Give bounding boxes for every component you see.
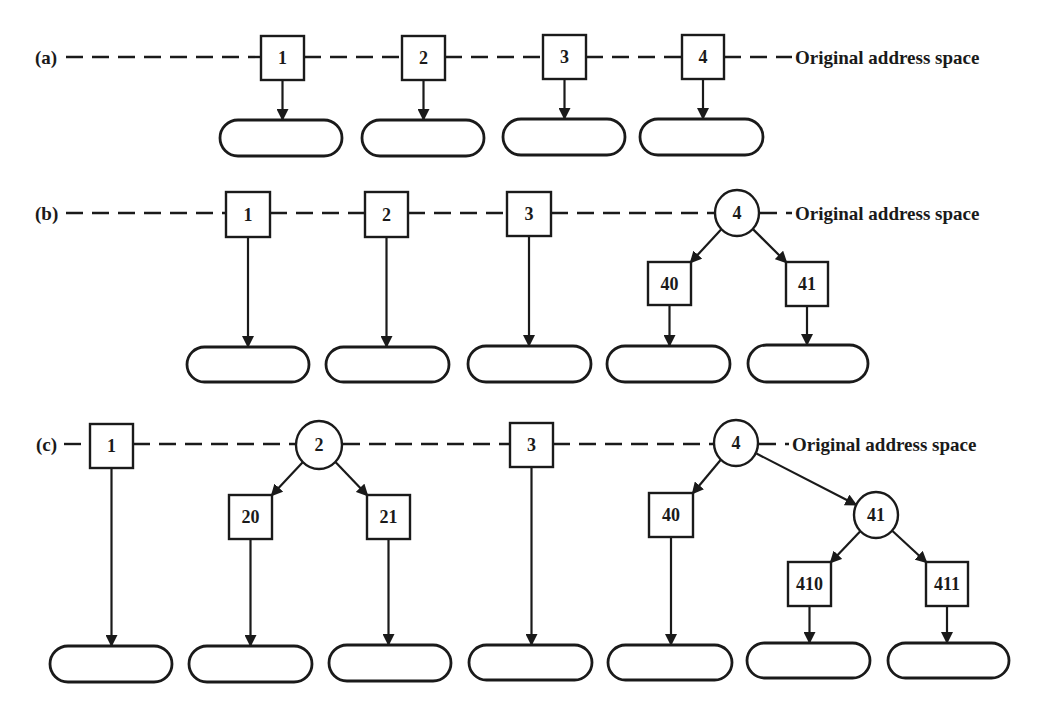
pointer-arrow (831, 532, 860, 562)
original-address-space-label: Original address space (795, 47, 979, 68)
pointer-arrow (753, 229, 786, 262)
node-label: 3 (525, 204, 534, 224)
node-label: 4 (733, 203, 742, 223)
split-node-2: 2 (296, 421, 342, 469)
node-label: 41 (798, 274, 816, 294)
node-label: 40 (661, 274, 679, 294)
data-bucket (748, 345, 868, 382)
node-label: 2 (315, 435, 324, 455)
directory-entry-20: 20 (229, 495, 272, 539)
split-node-4: 4 (714, 420, 758, 466)
directory-entry-2: 2 (402, 36, 445, 80)
node-label: 21 (380, 507, 398, 527)
node-label: 1 (107, 436, 116, 456)
split-node-4: 4 (715, 190, 759, 236)
directory-entry-1: 1 (226, 192, 270, 237)
row-label: (b) (35, 203, 58, 225)
directory-entry-2: 2 (365, 192, 408, 237)
pointer-arrow (892, 531, 926, 562)
directory-entry-40: 40 (648, 262, 691, 305)
pointer-arrow (691, 230, 721, 262)
data-bucket (747, 643, 870, 678)
pointer-arrow (756, 454, 855, 505)
directory-entry-410: 410 (788, 562, 831, 606)
pointer-arrow (336, 462, 367, 495)
directory-entry-21: 21 (367, 495, 410, 539)
extendible-hashing-diagram: (a)Original address space1234(b)Original… (0, 0, 1041, 711)
data-bucket (187, 347, 309, 382)
node-label: 4 (699, 47, 708, 67)
directory-entry-3: 3 (507, 192, 551, 236)
directory-entry-1: 1 (90, 424, 133, 468)
directory-entry-3: 3 (543, 35, 586, 79)
data-bucket (220, 120, 342, 156)
data-bucket (468, 346, 591, 382)
directory-entry-40: 40 (649, 493, 693, 537)
node-label: 2 (419, 48, 428, 68)
original-address-space-label: Original address space (792, 434, 976, 455)
data-bucket (608, 645, 732, 680)
data-bucket (189, 646, 312, 682)
data-bucket (50, 646, 172, 682)
node-label: 4 (732, 433, 741, 453)
data-bucket (503, 119, 625, 155)
node-label: 1 (278, 48, 287, 68)
row-c: (c)Original address space123420214041410… (36, 420, 1009, 682)
data-bucket (888, 643, 1009, 678)
directory-entry-4: 4 (682, 35, 724, 79)
row-label: (a) (35, 47, 57, 69)
data-bucket (362, 120, 484, 156)
node-label: 1 (244, 205, 253, 225)
row-a: (a)Original address space1234 (35, 35, 979, 156)
row-b: (b)Original address space12344041 (35, 190, 979, 382)
data-bucket (607, 346, 730, 382)
data-bucket (640, 119, 763, 155)
directory-entry-3: 3 (510, 423, 553, 467)
pointer-arrow (272, 462, 302, 495)
node-label: 411 (934, 574, 960, 594)
node-label: 20 (242, 507, 260, 527)
directory-entry-1: 1 (261, 36, 304, 80)
data-bucket (329, 645, 451, 681)
split-node-41: 41 (854, 492, 898, 538)
node-label: 3 (527, 435, 536, 455)
pointer-arrow (693, 460, 721, 493)
original-address-space-label: Original address space (795, 203, 979, 224)
data-bucket (326, 347, 449, 382)
data-bucket (469, 645, 592, 680)
node-label: 41 (867, 505, 885, 525)
row-label: (c) (36, 434, 57, 456)
directory-entry-411: 411 (926, 562, 968, 606)
node-label: 410 (796, 574, 823, 594)
node-label: 40 (662, 505, 680, 525)
directory-entry-41: 41 (786, 262, 828, 306)
node-label: 3 (560, 47, 569, 67)
node-label: 2 (382, 205, 391, 225)
